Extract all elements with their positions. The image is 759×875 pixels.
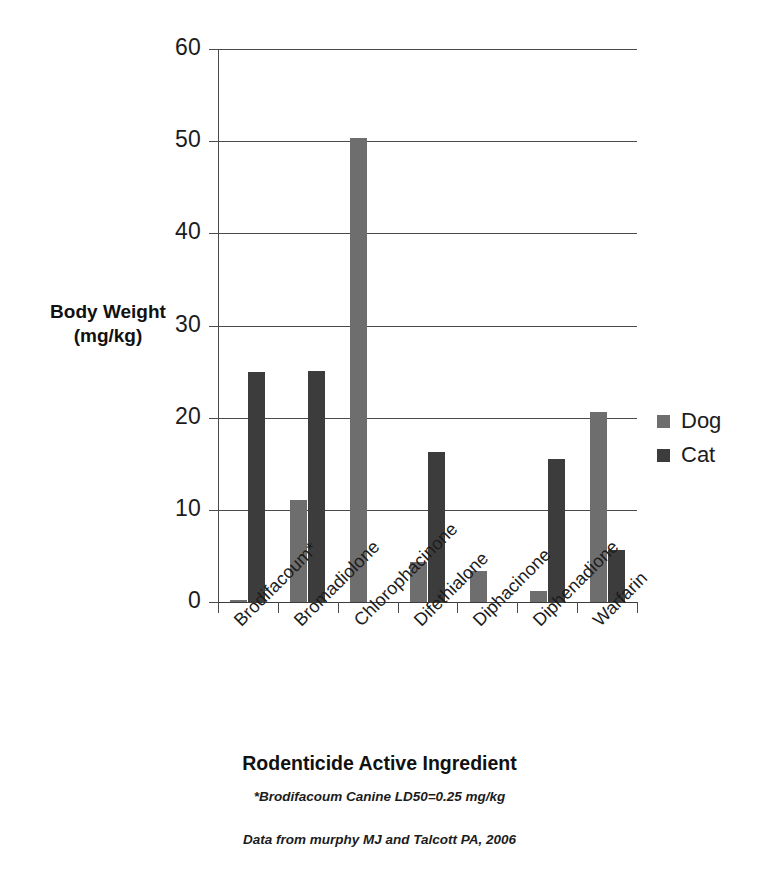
legend-item-cat: Cat	[657, 438, 721, 472]
y-tick-label: 50	[141, 126, 201, 153]
chart-figure: Body Weight (mg/kg) 0102030405060 Brodif…	[0, 0, 759, 875]
x-tick-mark	[457, 602, 458, 613]
x-tick-mark	[278, 602, 279, 613]
y-tick-mark	[209, 510, 218, 511]
bar-cat-5	[548, 459, 565, 602]
y-tick-label: 10	[141, 495, 201, 522]
legend-label: Dog	[681, 410, 721, 432]
footnote-ld50: *Brodifacoum Canine LD50=0.25 mg/kg	[0, 789, 759, 804]
y-tick-mark	[209, 233, 218, 234]
x-tick-mark	[517, 602, 518, 613]
y-tick-label: 20	[141, 403, 201, 430]
y-tick-label: 60	[141, 34, 201, 61]
x-tick-mark	[637, 602, 638, 613]
y-tick-mark	[209, 602, 218, 603]
bar-dog-2	[350, 138, 367, 602]
y-tick-mark	[209, 418, 218, 419]
x-tick-mark	[398, 602, 399, 613]
y-tick-mark	[209, 49, 218, 50]
x-tick-mark	[577, 602, 578, 613]
x-tick-mark	[338, 602, 339, 613]
chart-legend: DogCat	[657, 404, 721, 472]
bar-cat-1	[308, 371, 325, 602]
y-tick-label: 30	[141, 311, 201, 338]
x-axis-title: Rodenticide Active Ingredient	[0, 752, 759, 775]
legend-label: Cat	[681, 444, 715, 466]
y-tick-label: 40	[141, 218, 201, 245]
legend-swatch-icon	[657, 415, 670, 428]
y-tick-mark	[209, 141, 218, 142]
x-tick-mark	[218, 602, 219, 613]
y-tick-label: 0	[141, 587, 201, 614]
bar-cat-0	[248, 372, 265, 602]
legend-item-dog: Dog	[657, 404, 721, 438]
legend-swatch-icon	[657, 449, 670, 462]
y-tick-mark	[209, 326, 218, 327]
footnote-source: Data from murphy MJ and Talcott PA, 2006	[0, 832, 759, 847]
plot-area	[218, 49, 637, 602]
